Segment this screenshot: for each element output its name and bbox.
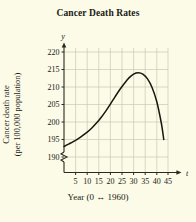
vertical-gridlines xyxy=(76,48,168,173)
x-tick-label-35: 35 xyxy=(141,177,149,186)
x-axis-line xyxy=(64,170,182,175)
y-tick-label-220: 220 xyxy=(48,48,60,57)
x-tick-label-40: 40 xyxy=(153,177,161,186)
x-tick-label-20: 20 xyxy=(106,177,114,186)
y-tick-label-210: 210 xyxy=(48,83,60,92)
y-axis-variable-label: y xyxy=(60,32,65,41)
y-tick-label-200: 200 xyxy=(48,118,60,127)
plot-area: 190 195 200 205 210 215 220 5 10 15 20 2… xyxy=(0,0,196,222)
x-tick-label-25: 25 xyxy=(118,177,126,186)
x-tick-label-5: 5 xyxy=(74,177,78,186)
x-tick-label-30: 30 xyxy=(130,177,138,186)
horizontal-gridlines xyxy=(64,52,168,173)
x-tick-label-10: 10 xyxy=(83,177,91,186)
y-tick-label-215: 215 xyxy=(48,65,60,74)
x-axis-variable-label: t xyxy=(186,169,189,178)
data-curve xyxy=(64,73,164,147)
x-tick-label-45: 45 xyxy=(164,177,172,186)
y-tick-label-190: 190 xyxy=(48,153,60,162)
y-tick-label-195: 195 xyxy=(48,135,60,144)
chart-figure: Cancer Death Rates Cancer death rate (pe… xyxy=(0,0,196,222)
x-tick-label-15: 15 xyxy=(95,177,103,186)
y-tick-label-205: 205 xyxy=(48,100,60,109)
